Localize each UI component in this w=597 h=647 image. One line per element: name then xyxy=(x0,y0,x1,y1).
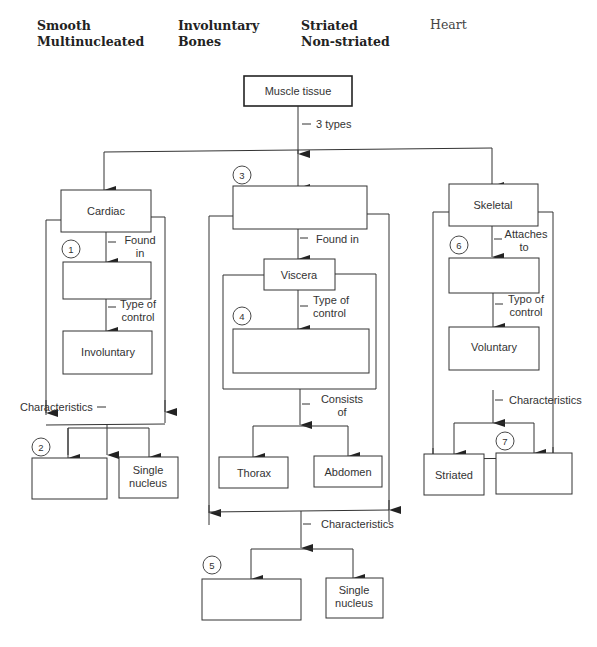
attaches-to-label-2: to xyxy=(519,241,528,253)
smooth-control-label-2: control xyxy=(313,307,346,319)
blank-number-3: 3 xyxy=(239,170,244,181)
smooth-char-blank-5[interactable] xyxy=(202,579,301,620)
cardiac-characteristics-label: Characteristics xyxy=(20,401,93,413)
cardiac-char2-line2: nucleus xyxy=(129,477,167,489)
skeletal-char-blank-7[interactable] xyxy=(496,453,572,494)
smooth-found-in-label: Found in xyxy=(316,233,359,245)
smooth-char2-line2: nucleus xyxy=(335,597,373,609)
smooth-char2-line1: Single xyxy=(339,584,370,596)
root-label: Muscle tissue xyxy=(265,85,332,97)
attaches-to-label-1: Attaches xyxy=(505,228,548,240)
blank-number-2: 2 xyxy=(38,442,43,453)
cardiac-control-label-2: control xyxy=(121,311,154,323)
cardiac-control-label-1: Type of xyxy=(120,298,157,310)
skeletal-characteristics-label: Characteristics xyxy=(509,394,582,406)
smooth-char-join xyxy=(209,510,389,512)
smooth-control-blank-4[interactable] xyxy=(233,329,369,373)
cardiac-found-in-label-1: Found xyxy=(124,234,155,246)
cardiac-found-in-label-2: in xyxy=(136,247,145,259)
root-edge-label: 3 types xyxy=(316,118,352,130)
skeletal-control-value: Voluntary xyxy=(471,341,517,353)
skeletal-left-bracket xyxy=(433,212,449,468)
cardiac-left-bracket xyxy=(46,220,61,415)
consists-of-label-1: Consists xyxy=(321,393,364,405)
cardiac-found-in-blank[interactable] xyxy=(63,262,151,299)
cardiac-char-blank-2[interactable] xyxy=(32,458,107,499)
smooth-characteristics-label: Characteristics xyxy=(321,518,394,530)
abdomen-label: Abdomen xyxy=(324,466,371,478)
blank-number-4: 4 xyxy=(239,311,244,322)
striated-label: Striated xyxy=(435,469,473,481)
blank-number-1: 1 xyxy=(68,244,73,255)
smooth-type-blank-3[interactable] xyxy=(233,186,367,229)
skeletal-control-label-2: control xyxy=(509,306,542,318)
skeletal-right-bracket xyxy=(538,212,553,466)
smooth-control-label-1: Type of xyxy=(313,294,350,306)
cardiac-control-value: Involuntary xyxy=(81,346,135,358)
cardiac-label: Cardiac xyxy=(87,205,125,217)
cardiac-char-join xyxy=(46,424,165,425)
skeletal-label: Skeletal xyxy=(473,199,512,211)
blank-number-7: 7 xyxy=(502,436,507,447)
cardiac-char2-line1: Single xyxy=(133,464,164,476)
concept-map: Muscle tissue 3 types Cardiac Found in 1… xyxy=(0,0,597,647)
blank-number-6: 6 xyxy=(456,240,461,251)
thorax-label: Thorax xyxy=(237,467,272,479)
blank-number-5: 5 xyxy=(209,560,214,571)
consists-of-label-2: of xyxy=(337,406,347,418)
smooth-location: Viscera xyxy=(281,269,318,281)
skeletal-attaches-blank-6[interactable] xyxy=(449,258,539,293)
skeletal-control-label-1: Typo of xyxy=(508,293,545,305)
